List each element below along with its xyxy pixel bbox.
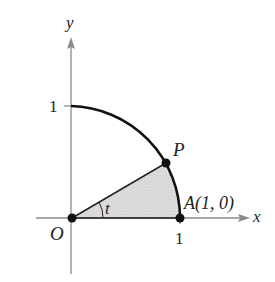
origin-point: [68, 214, 77, 223]
x-axis-label: x: [252, 207, 261, 226]
point-a-label: A(1, 0): [183, 193, 234, 214]
y-tick-label: 1: [49, 97, 58, 116]
y-axis-label: y: [64, 13, 74, 32]
unit-circle-diagram: y x 1 1 O P A(1, 0) t: [0, 0, 275, 282]
origin-label: O: [50, 223, 64, 244]
point-p: [162, 159, 171, 168]
point-a: [176, 214, 185, 223]
point-p-label: P: [172, 139, 185, 160]
shaded-sector: [72, 163, 180, 218]
x-tick-label: 1: [175, 229, 184, 248]
